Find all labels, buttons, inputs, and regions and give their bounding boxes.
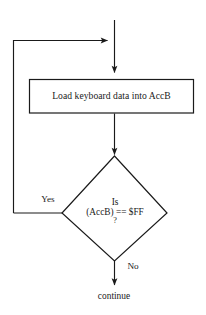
decision-line-1: Is — [86, 197, 143, 207]
flowchart-canvas — [0, 0, 206, 315]
flowchart-diagram: Load keyboard data into AccB Is (AccB) =… — [0, 0, 206, 315]
decision-node-label: Is (AccB) == $FF ? — [86, 197, 143, 225]
no-branch-label: No — [127, 262, 138, 272]
decision-line-3: ? — [86, 217, 143, 225]
process-node-label: Load keyboard data into AccB — [52, 91, 171, 101]
yes-branch-label: Yes — [41, 195, 54, 205]
continue-terminal-label: continue — [98, 291, 130, 301]
